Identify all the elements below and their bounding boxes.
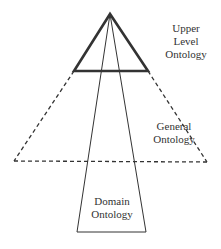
general-label-line2: Ontology — [146, 133, 202, 146]
domain-label-line2: Ontology — [84, 208, 140, 221]
upper-label-line1: Upper — [158, 22, 214, 35]
general-left-edge — [14, 71, 74, 161]
domain-label-line1: Domain — [84, 195, 140, 208]
general-right-edge — [148, 71, 207, 162]
general-label-line1: General — [146, 120, 202, 133]
upper-label-line3: Ontology — [158, 48, 214, 61]
general-bottom-edge — [14, 161, 207, 162]
domain-ontology-label: Domain Ontology — [84, 195, 140, 221]
general-ontology-shape — [14, 71, 207, 162]
upper-label-line2: Level — [158, 35, 214, 48]
upper-level-ontology-label: Upper Level Ontology — [158, 22, 214, 61]
general-ontology-label: General Ontology — [146, 120, 202, 146]
